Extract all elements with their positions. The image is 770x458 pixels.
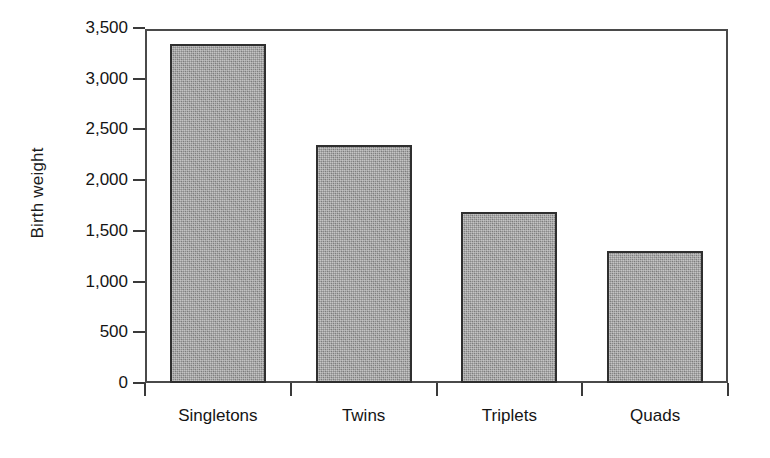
y-tick-label: 3,000: [0, 70, 128, 87]
y-tick-label: 0: [0, 374, 128, 391]
y-axis-tick-labels: 3,500 3,000 2,500 2,000 1,500 1,000 500 …: [0, 0, 128, 458]
y-tick-label: 1,000: [0, 273, 128, 290]
y-tick-label: 2,500: [0, 120, 128, 137]
x-tick-mark: [581, 383, 583, 396]
plot-area: [145, 29, 728, 383]
x-tick-label-quads: Quads: [565, 406, 745, 426]
bar-triplets: [461, 212, 557, 383]
bar-quads: [607, 251, 703, 383]
y-tick-mark: [133, 331, 145, 333]
x-tick-mark: [290, 383, 292, 396]
y-tick-mark: [133, 78, 145, 80]
y-tick-label: 2,000: [0, 171, 128, 188]
bar-twins: [316, 145, 412, 383]
y-tick-mark: [133, 27, 145, 29]
x-tick-mark: [436, 383, 438, 396]
bar-singletons: [170, 44, 266, 383]
y-tick-label: 3,500: [0, 19, 128, 36]
y-tick-mark: [133, 281, 145, 283]
y-tick-mark: [133, 230, 145, 232]
y-tick-label: 500: [0, 323, 128, 340]
y-tick-label: 1,500: [0, 222, 128, 239]
y-tick-mark: [133, 179, 145, 181]
x-tick-mark: [144, 383, 146, 396]
y-tick-mark: [133, 128, 145, 130]
bar-chart-figure: Birth weight 3,500 3,000 2,500 2,000 1,5…: [0, 0, 770, 458]
x-tick-mark: [727, 383, 729, 396]
